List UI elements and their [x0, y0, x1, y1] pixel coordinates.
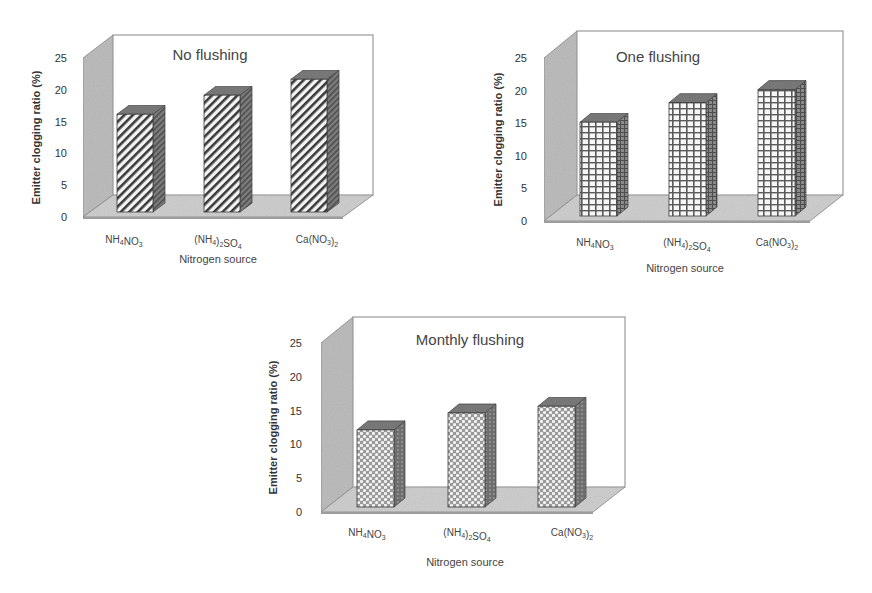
y-tick-label: 15 — [515, 117, 527, 129]
x-axis-label: Nitrogen source — [646, 262, 724, 274]
bar-front — [580, 122, 617, 216]
side-wall — [544, 31, 577, 221]
chart-2: 0510152025Emitter clogging ratio (%)One … — [492, 31, 843, 274]
bar-front — [669, 103, 706, 216]
bar-side — [706, 94, 717, 216]
bar-front — [117, 114, 153, 212]
x-axis-label: Nitrogen source — [426, 556, 504, 568]
y-tick-label: 0 — [521, 215, 527, 227]
bar-front — [758, 90, 795, 216]
bar-front — [538, 406, 575, 507]
y-tick-label: 25 — [515, 52, 527, 64]
bar — [117, 105, 165, 212]
chart-3: 0510152025Emitter clogging ratio (%)Mont… — [267, 317, 625, 568]
y-tick-label: 10 — [55, 147, 67, 159]
bar-side — [327, 70, 339, 212]
y-tick-label: 10 — [515, 150, 527, 162]
y-axis-label: Emitter clogging ratio (%) — [492, 72, 504, 206]
y-tick-label: 20 — [290, 371, 302, 383]
chart-1: 0510152025Emitter clogging ratio (%)No f… — [30, 35, 373, 265]
bar — [669, 94, 717, 216]
chart-title: Monthly flushing — [416, 331, 524, 348]
x-category-label: (NH4)2SO4 — [663, 237, 710, 253]
y-tick-label: 15 — [290, 405, 302, 417]
bar — [538, 397, 586, 507]
side-wall — [321, 317, 353, 512]
x-category-label: NH4NO3 — [348, 527, 385, 541]
bar-side — [153, 105, 165, 212]
x-category-label: (NH4)2SO4 — [443, 527, 490, 543]
y-tick-label: 0 — [61, 211, 67, 223]
bar-side — [240, 86, 252, 212]
bar-front — [357, 430, 394, 507]
bar-side — [394, 421, 405, 507]
y-axis-label: Emitter clogging ratio (%) — [267, 360, 279, 494]
bar — [448, 404, 496, 507]
bar-side — [485, 404, 496, 507]
floor-edge — [544, 221, 810, 223]
figure: 0510152025Emitter clogging ratio (%)No f… — [0, 0, 872, 593]
bar — [291, 70, 339, 212]
y-tick-label: 25 — [290, 337, 302, 349]
y-axis-label: Emitter clogging ratio (%) — [30, 70, 42, 204]
y-tick-label: 5 — [521, 182, 527, 194]
x-category-label: Ca(NO3)2 — [756, 237, 798, 251]
x-category-label: (NH4)2SO4 — [194, 234, 241, 250]
y-tick-label: 15 — [55, 116, 67, 128]
y-tick-label: 25 — [55, 52, 67, 64]
y-tick-label: 20 — [55, 84, 67, 96]
bar — [580, 113, 628, 216]
bar-side — [795, 81, 806, 216]
bar — [758, 81, 806, 216]
chart-title: No flushing — [172, 46, 247, 63]
x-axis-label: Nitrogen source — [179, 253, 257, 265]
bar-front — [204, 95, 240, 212]
bar — [204, 86, 252, 212]
bar-side — [575, 397, 586, 507]
bar-front — [291, 79, 327, 212]
bar-front — [448, 413, 485, 507]
floor-edge — [321, 512, 593, 514]
y-tick-label: 20 — [515, 85, 527, 97]
y-tick-label: 0 — [296, 506, 302, 518]
x-category-label: Ca(NO3)2 — [296, 234, 338, 248]
bar — [357, 421, 405, 507]
x-category-label: NH4NO3 — [576, 237, 613, 251]
floor-edge — [83, 217, 343, 219]
x-category-label: Ca(NO3)2 — [551, 527, 593, 541]
x-category-label: NH4NO3 — [105, 234, 142, 248]
bar-side — [617, 113, 628, 216]
y-tick-label: 5 — [296, 472, 302, 484]
chart-title: One flushing — [616, 48, 700, 65]
side-wall — [83, 35, 113, 217]
y-tick-label: 10 — [290, 438, 302, 450]
y-tick-label: 5 — [61, 179, 67, 191]
